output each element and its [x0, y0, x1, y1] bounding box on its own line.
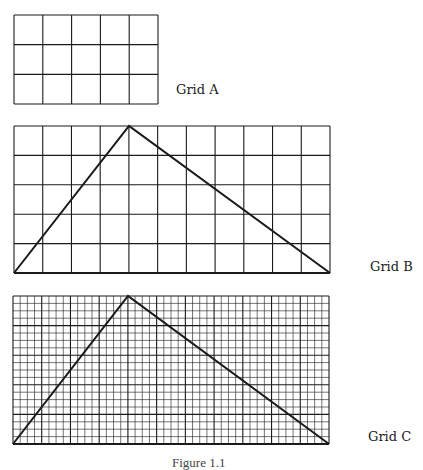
figure-caption: Figure 1.1: [172, 456, 225, 469]
grid-c-label: Grid C: [368, 430, 411, 443]
grid-a-label: Grid A: [176, 83, 219, 96]
grid-b-label: Grid B: [370, 260, 413, 273]
grid-c: [13, 296, 329, 444]
triangle-shape: [14, 126, 330, 273]
grid-b: [14, 126, 330, 273]
grid-a: [14, 15, 158, 104]
